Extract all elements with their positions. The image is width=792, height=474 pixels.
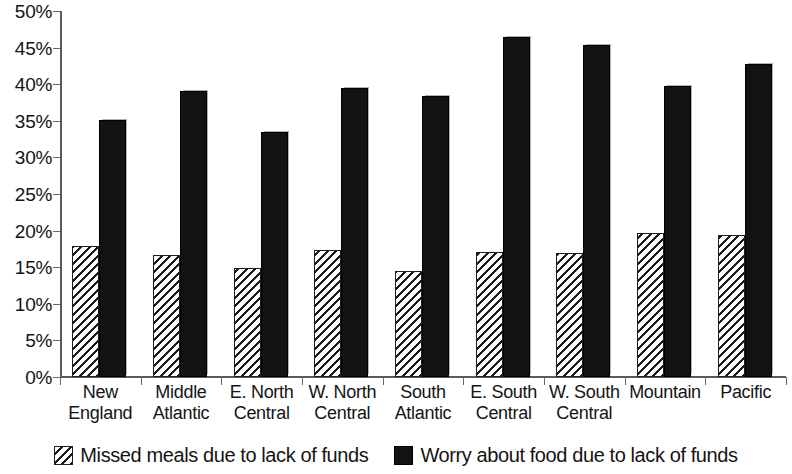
bar-group [625, 11, 706, 377]
y-tick-label: 30% [15, 148, 52, 167]
y-tick-label: 50% [15, 2, 52, 21]
bar-chart: 0%5%10%15%20%25%30%35%40%45%50% New Engl… [0, 0, 792, 474]
y-tick-label: 40% [15, 75, 52, 94]
y-tick-mark [53, 84, 60, 85]
bar-group [463, 11, 544, 377]
bar-group [221, 11, 302, 377]
legend-label: Worry about food due to lack of funds [420, 444, 737, 466]
bar-worry-about-food [745, 64, 772, 377]
bar-worry-about-food [261, 132, 288, 377]
bar-worry-about-food [99, 120, 126, 377]
y-tick-mark [53, 194, 60, 195]
bar-worry-about-food [503, 37, 530, 377]
bar-group [60, 11, 141, 377]
y-tick-label: 15% [15, 258, 52, 277]
bar-missed-meals [556, 253, 583, 377]
solid-swatch-icon [394, 446, 413, 465]
bar-missed-meals [72, 246, 99, 377]
plot-area [60, 11, 786, 377]
chart-legend: Missed meals due to lack of fundsWorry a… [0, 436, 792, 474]
bar-missed-meals [637, 233, 664, 377]
bar-missed-meals [476, 252, 503, 377]
x-category-label: South Atlantic [377, 382, 470, 424]
bar-worry-about-food [664, 86, 691, 377]
y-tick-label: 35% [15, 111, 52, 130]
y-tick-mark [53, 377, 60, 378]
y-tick-mark [53, 267, 60, 268]
x-category-label: E. North Central [215, 382, 308, 424]
legend-label: Missed meals due to lack of funds [80, 444, 368, 466]
y-tick-label: 0% [25, 368, 52, 387]
legend-item: Missed meals due to lack of funds [54, 444, 368, 466]
y-tick-mark [53, 340, 60, 341]
y-tick-mark [53, 231, 60, 232]
y-axis: 0%5%10%15%20%25%30%35%40%45%50% [0, 0, 56, 390]
y-tick-mark [53, 121, 60, 122]
bar-missed-meals [718, 235, 745, 377]
bar-missed-meals [234, 268, 261, 377]
bar-group [141, 11, 222, 377]
bar-group [302, 11, 383, 377]
x-category-label: Middle Atlantic [135, 382, 228, 424]
y-tick-label: 45% [15, 38, 52, 57]
bar-worry-about-food [180, 91, 207, 377]
y-tick-label: 25% [15, 185, 52, 204]
bar-missed-meals [395, 271, 422, 377]
y-tick-mark [53, 48, 60, 49]
bar-worry-about-food [422, 96, 449, 377]
hatch-swatch-icon [54, 446, 73, 465]
bar-group [544, 11, 625, 377]
x-category-label: W. South Central [538, 382, 631, 424]
x-category-label: W. North Central [296, 382, 389, 424]
x-axis: New EnglandMiddle AtlanticE. North Centr… [60, 382, 786, 434]
bar-missed-meals [153, 255, 180, 377]
y-tick-mark [53, 157, 60, 158]
x-category-label: Mountain [619, 382, 712, 403]
x-category-label: New England [54, 382, 147, 424]
bar-group [383, 11, 464, 377]
legend-item: Worry about food due to lack of funds [394, 444, 737, 466]
x-category-label: E. South Central [457, 382, 550, 424]
bar-worry-about-food [341, 88, 368, 377]
bar-worry-about-food [583, 45, 610, 377]
y-tick-label: 10% [15, 294, 52, 313]
x-category-label: Pacific [699, 382, 792, 403]
y-tick-label: 20% [15, 221, 52, 240]
bar-group [705, 11, 786, 377]
y-tick-label: 5% [25, 331, 52, 350]
y-tick-mark [53, 11, 60, 12]
y-tick-mark [53, 304, 60, 305]
bar-missed-meals [314, 250, 341, 377]
